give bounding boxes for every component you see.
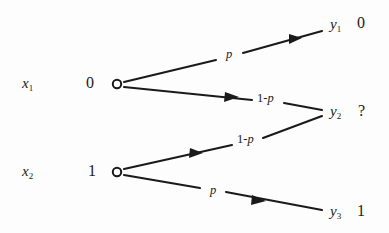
edge-label-x2-y3: p (208, 184, 218, 197)
edge-label-x2-y2: 1-p (235, 133, 256, 146)
output-index-y3: 3 (337, 211, 342, 221)
input-index-x1: 1 (29, 83, 34, 93)
arrowhead-x1-y2 (224, 92, 239, 102)
edge-label-text-x2-y2: p (247, 132, 253, 146)
output-var-y1: y (330, 16, 337, 32)
input-label-x2: x2 (22, 164, 33, 179)
arrowhead-x1-y1 (289, 34, 302, 44)
edge-x2-y2 (124, 116, 322, 169)
input-value-x2: 1 (88, 163, 96, 179)
output-index-y2: 2 (337, 111, 342, 121)
node-x2[interactable] (113, 168, 121, 176)
edge-label-x1-y1: p (224, 48, 234, 61)
output-value-y1: 0 (357, 15, 365, 31)
output-value-y3: 1 (357, 203, 365, 219)
node-x1[interactable] (113, 80, 121, 88)
arrowhead-x2-y2 (189, 148, 203, 158)
input-var-x2: x (22, 163, 29, 179)
edge-x2-y3 (124, 175, 322, 210)
input-label-x1: x1 (22, 76, 33, 91)
edge-label-text-x2-y3: p (210, 183, 216, 197)
output-label-y2: y2 (330, 104, 341, 119)
output-label-y3: y3 (330, 204, 341, 219)
edge-x1-y1 (124, 31, 322, 82)
figure-canvas: x1 0 x2 1 y1 0 y2 ? y3 1 p 1-p 1-p p (0, 0, 389, 233)
output-value-y2: ? (358, 103, 365, 119)
edge-label-prefix-x1-y2: 1- (257, 91, 267, 105)
input-value-x1: 0 (86, 75, 94, 91)
output-index-y1: 1 (337, 24, 342, 34)
edge-x1-y2 (124, 87, 322, 110)
edge-label-text-x1-y2: p (267, 91, 273, 105)
input-var-x1: x (22, 75, 29, 91)
edge-label-x1-y2: 1-p (255, 92, 276, 105)
output-var-y3: y (330, 203, 337, 219)
output-var-y2: y (330, 103, 337, 119)
output-label-y1: y1 (330, 17, 341, 32)
edge-label-prefix-x2-y2: 1- (237, 132, 247, 146)
input-index-x2: 2 (29, 171, 34, 181)
edge-label-text-x1-y1: p (226, 47, 232, 61)
